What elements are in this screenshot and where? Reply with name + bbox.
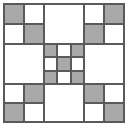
patch-center-4 <box>44 57 57 70</box>
block-bottom-right <box>84 84 124 122</box>
block-bottom-center <box>44 84 84 122</box>
patch-top-left-1 <box>4 4 24 24</box>
block-middle-left <box>4 44 44 84</box>
block-middle-right <box>84 44 124 84</box>
patch-bottom-left-4 <box>24 103 44 122</box>
patch-top-right-4 <box>104 24 124 44</box>
patch-bottom-right-4 <box>104 103 124 122</box>
block-bottom-left <box>4 84 44 122</box>
quilt-block-frame <box>3 3 125 123</box>
patch-center-6 <box>71 57 84 70</box>
patch-center-8 <box>57 71 70 84</box>
figure-title: Quilt Block Pattern <box>0 0 1 1</box>
patch-top-left-3 <box>4 24 24 44</box>
patch-bottom-right-1 <box>84 84 104 103</box>
patch-center-9 <box>71 71 84 84</box>
quilt-block-figure: Quilt Block Pattern <box>0 0 132 130</box>
patch-center-7 <box>44 71 57 84</box>
block-center <box>44 44 84 84</box>
patch-top-right-3 <box>84 24 104 44</box>
patch-center-2 <box>57 44 70 57</box>
patch-bottom-right-3 <box>84 103 104 122</box>
patch-center-3 <box>71 44 84 57</box>
patch-center-1 <box>44 44 57 57</box>
patch-top-right-2 <box>104 4 124 24</box>
patch-bottom-left-3 <box>4 103 24 122</box>
patch-top-right-1 <box>84 4 104 24</box>
patch-bottom-left-2 <box>24 84 44 103</box>
patch-top-left-4 <box>24 24 44 44</box>
block-top-right <box>84 4 124 44</box>
block-top-left <box>4 4 44 44</box>
patch-top-left-2 <box>24 4 44 24</box>
block-top-center <box>44 4 84 44</box>
patch-center-5 <box>57 57 70 70</box>
patch-bottom-left-1 <box>4 84 24 103</box>
patch-bottom-right-2 <box>104 84 124 103</box>
